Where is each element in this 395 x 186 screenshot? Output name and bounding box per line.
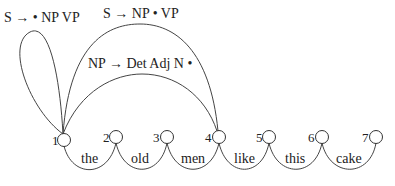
edge-self-loop-1: [20, 31, 63, 134]
edge-label-inner-arc: NP → Det Adj N •: [88, 56, 192, 71]
node-label: 5: [256, 130, 263, 145]
node-7: 7: [362, 130, 383, 145]
node-2: 2: [103, 130, 123, 145]
node-label: 6: [308, 130, 315, 145]
word-cake: cake: [336, 151, 362, 166]
edge-label-outer-arc: S → NP • VP: [103, 6, 179, 21]
node-label: 3: [153, 130, 160, 145]
node-6: 6: [308, 130, 329, 145]
node-label: 7: [362, 130, 369, 145]
word-this: this: [285, 151, 305, 166]
word-old: old: [131, 151, 149, 166]
node-label: 1: [52, 133, 59, 148]
node-4: 4: [205, 130, 226, 145]
node-label: 4: [205, 130, 212, 145]
word-men: men: [181, 151, 205, 166]
edge-outer-arc-1-4: [63, 24, 218, 134]
chart-parse-diagram: 1 2 3 4 5 6 7 the old men like this cake…: [0, 0, 395, 186]
edge-label-self-loop: S → • NP VP: [4, 10, 80, 25]
word-the: the: [81, 151, 98, 166]
node-5: 5: [256, 130, 276, 145]
word-like: like: [234, 151, 255, 166]
node-3: 3: [153, 130, 174, 145]
node-1: 1: [52, 133, 71, 148]
node-label: 2: [103, 130, 110, 145]
edge-inner-arc-1-4: [63, 74, 217, 134]
